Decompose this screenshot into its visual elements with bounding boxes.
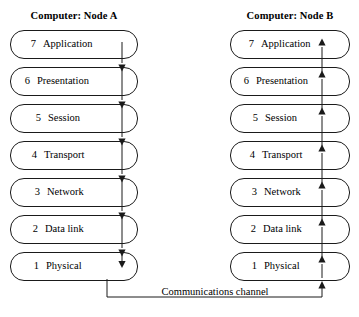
communications-channel-label: Communications channel — [140, 286, 290, 297]
diagram-connectors — [0, 0, 359, 317]
communications-channel-arrowhead — [318, 281, 325, 289]
osi-layer-diagram: Computer: Node A Computer: Node B 7Appli… — [0, 0, 359, 317]
